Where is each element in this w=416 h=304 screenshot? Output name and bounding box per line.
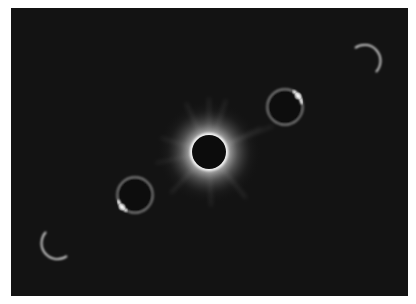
diamond-ring-lower (117, 177, 153, 213)
diamond-bead (117, 202, 127, 212)
moon-disk (192, 135, 226, 169)
partial-crescent-end (41, 232, 67, 259)
eclipse-sequence (11, 8, 408, 296)
diamond-ring-upper (267, 89, 303, 125)
diamond-bead (293, 91, 303, 101)
eclipse-photo: Composite photograph of a total solar ec… (11, 8, 408, 296)
partial-crescent-start (355, 45, 381, 72)
totality-corona (156, 98, 273, 206)
